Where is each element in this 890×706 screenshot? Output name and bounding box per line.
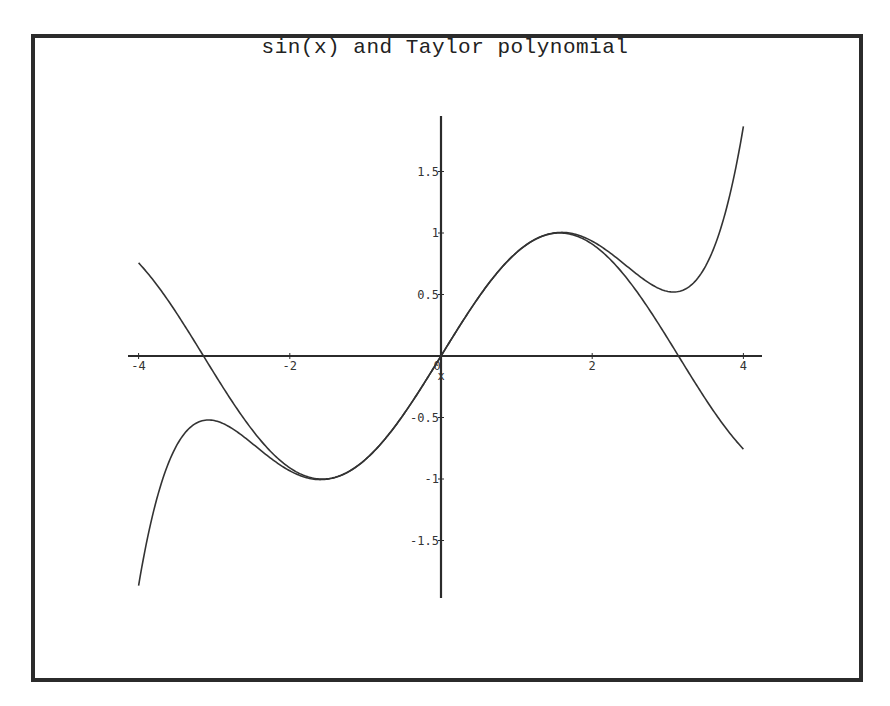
x-axis-label: x xyxy=(437,369,444,383)
y-tick-label: 1 xyxy=(432,226,439,240)
y-tick-label: -1 xyxy=(425,472,439,486)
axes xyxy=(128,116,762,598)
plot-area: -4-2024-1.5-1-0.50.511.5x xyxy=(0,0,890,706)
y-tick-label: 0.5 xyxy=(417,288,439,302)
x-tick-label: 2 xyxy=(589,359,596,373)
x-tick-label: -4 xyxy=(131,359,145,373)
y-tick-label: -0.5 xyxy=(410,411,439,425)
x-tick-label: 4 xyxy=(740,359,747,373)
y-tick-label: -1.5 xyxy=(410,534,439,548)
y-tick-label: 1.5 xyxy=(417,165,439,179)
x-tick-label: -2 xyxy=(283,359,297,373)
